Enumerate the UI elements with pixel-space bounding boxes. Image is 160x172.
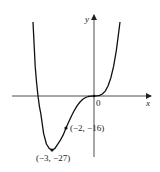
- origin-label: 0: [96, 98, 101, 108]
- inflection-point-marker: [64, 126, 67, 129]
- x-axis-label: x: [145, 98, 150, 108]
- y-axis-label: y: [84, 14, 89, 24]
- minimum-point-label: (−3, −27): [36, 153, 70, 163]
- function-graph: y x 0 (−2, −16) (−3, −27): [0, 0, 160, 172]
- minimum-point-marker: [50, 148, 53, 151]
- origin-point-marker: [93, 95, 96, 98]
- inflection-point-label: (−2, −16): [70, 123, 104, 133]
